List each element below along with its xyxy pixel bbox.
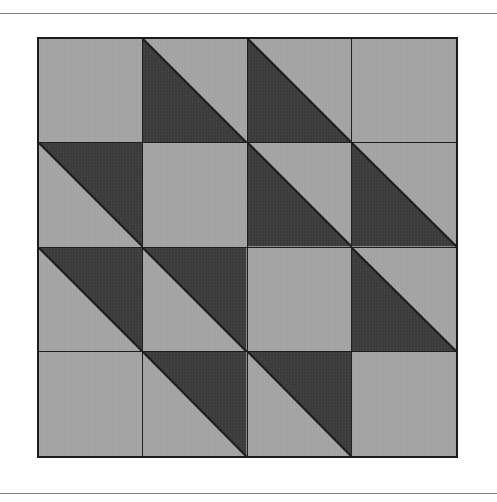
- quilt-patch-r1-c1: [143, 143, 247, 247]
- quilt-patch-r1-c3: [352, 143, 456, 247]
- bottom-page-rule: [0, 493, 497, 494]
- quilt-patch-r1-c0: [39, 143, 143, 247]
- quilt-patch-r0-c3: [352, 39, 456, 143]
- quilt-patch-r3-c1: [143, 352, 247, 456]
- quilt-patch-r0-c1: [143, 39, 247, 143]
- quilt-patch-r0-c2: [248, 39, 352, 143]
- quilt-patch-r3-c0: [39, 352, 143, 456]
- quilt-patch-r0-c0: [39, 39, 143, 143]
- top-page-rule: [0, 13, 497, 14]
- quilt-patch-r2-c2: [248, 248, 352, 352]
- quilt-patch-r1-c2: [248, 143, 352, 247]
- quilt-patch-r2-c3: [352, 248, 456, 352]
- quilt-block-diagram: [37, 37, 458, 458]
- quilt-patch-r2-c0: [39, 248, 143, 352]
- quilt-patch-r3-c2: [248, 352, 352, 456]
- quilt-patch-r3-c3: [352, 352, 456, 456]
- page-canvas: [0, 0, 497, 502]
- quilt-patch-r2-c1: [143, 248, 247, 352]
